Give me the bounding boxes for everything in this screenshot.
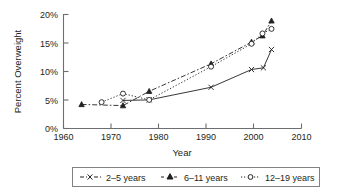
circle-marker [260, 31, 265, 36]
overweight-trend-line-chart: 20% 15% 10% 5% 0% Percent Overweight 196… [0, 0, 352, 195]
legend-label-2-5-years: 2–5 years [106, 173, 146, 183]
series-line [102, 29, 272, 102]
series-line [123, 49, 272, 100]
circle-marker [248, 175, 253, 180]
y-axis: 20% 15% 10% 5% 0% Percent Overweight [12, 10, 69, 134]
x-tick-label-2000: 2000 [243, 132, 263, 142]
x-axis-title: Year [172, 147, 191, 158]
x-tick-label-1970: 1970 [101, 132, 121, 142]
series-line [82, 21, 272, 106]
y-tick-label-10: 10% [40, 67, 58, 77]
x-tick-label-2010: 2010 [291, 132, 311, 142]
circle-marker [209, 64, 214, 69]
y-axis-title: Percent Overweight [12, 29, 23, 113]
circle-marker [269, 26, 274, 31]
circle-marker [121, 91, 126, 96]
x-tick-label-1980: 1980 [148, 132, 168, 142]
x-marker [269, 47, 274, 52]
triangle-marker [146, 88, 151, 93]
series-12-19-years [99, 26, 274, 104]
triangle-marker [269, 18, 274, 23]
circle-marker [147, 97, 152, 102]
y-tick-label-15: 15% [40, 39, 58, 49]
y-tick-label-20: 20% [40, 10, 58, 20]
x-tick-label-1960: 1960 [53, 132, 73, 142]
y-tick-label-5: 5% [45, 96, 58, 106]
legend-label-12-19-years: 12–19 years [265, 173, 315, 183]
chart-figure: 20% 15% 10% 5% 0% Percent Overweight 196… [0, 0, 352, 195]
chart-legend: 2–5 years 6–11 years 12–19 years [73, 168, 320, 187]
x-axis: 1960 1970 1980 1990 2000 2010 Year [53, 124, 311, 159]
plot-area [79, 18, 274, 108]
circle-marker [249, 41, 254, 46]
legend-label-6-11-years: 6–11 years [184, 173, 228, 183]
x-tick-label-1990: 1990 [196, 132, 216, 142]
circle-marker [99, 100, 104, 105]
